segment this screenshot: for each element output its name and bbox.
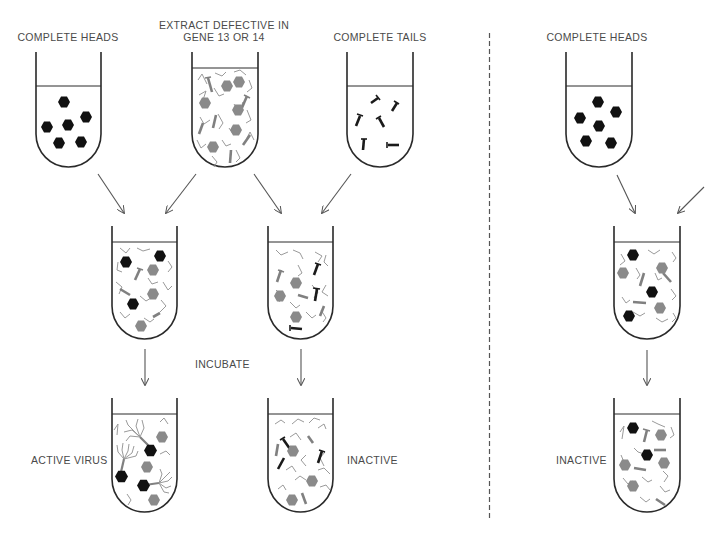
label-extract-line2: GENE 13 OR 14 [183, 31, 265, 43]
label-incubate: INCUBATE [195, 358, 250, 370]
label-complete-heads-right: COMPLETE HEADS [546, 31, 647, 43]
complete-tails-particles [356, 95, 399, 150]
mix-tails-extract-heads [274, 278, 302, 323]
label-extract-line1: EXTRACT DEFECTIVE IN [159, 19, 289, 31]
tube-result-inactive-middle [268, 398, 333, 512]
complete-heads-particles-left [41, 97, 92, 149]
arrow-heads-to-mix [98, 174, 124, 213]
label-inactive-right: INACTIVE [556, 454, 607, 466]
arrow-heads-right-to-mix [617, 175, 635, 213]
inactive-middle-particles [275, 418, 330, 504]
label-complete-tails: COMPLETE TAILS [333, 31, 426, 43]
complete-heads-particles-right [574, 97, 622, 149]
inactive-right-heads [619, 423, 670, 492]
tube-result-active-virus [112, 398, 177, 512]
tube-complete-heads-right [566, 52, 632, 167]
active-virus-particles [114, 418, 172, 505]
tube-extract-defective [192, 52, 258, 167]
arrow-extract-to-tails-mix [254, 174, 281, 213]
arrows [98, 174, 704, 385]
label-inactive-middle: INACTIVE [347, 454, 398, 466]
defective-heads-extract [199, 77, 245, 153]
tube-complete-heads-left [36, 52, 101, 167]
phage-assembly-diagram: COMPLETE HEADS EXTRACT DEFECTIVE IN GENE… [0, 0, 713, 535]
label-active-virus: ACTIVE VIRUS [31, 454, 108, 466]
label-complete-heads-left: COMPLETE HEADS [17, 31, 118, 43]
active-virus-heads [115, 432, 168, 506]
mix-tails-extract-particles [276, 250, 328, 331]
arrow-tails-to-mix [322, 174, 351, 213]
mix-heads-extract-heads [120, 251, 166, 332]
tube-complete-tails [347, 52, 413, 167]
arrow-extract-to-heads-mix [166, 174, 196, 213]
arrow-extract-right-to-mix [678, 187, 704, 213]
